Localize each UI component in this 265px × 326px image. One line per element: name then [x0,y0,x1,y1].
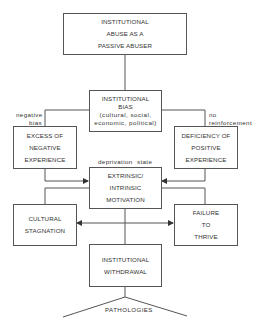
node-text: INSTITUTIONAL [102,95,150,103]
node-text: PASSIVE ABUSER [98,40,152,52]
node-text: EXTRINSIC/ [108,170,144,182]
node-text: (cultural, social, [100,111,152,119]
node-text: THRIVE [194,231,217,243]
node-text: WITHDRAWAL [104,266,147,278]
node-text: CULTURAL [28,213,61,225]
label-no-reinforcement: no reinforcement [209,111,252,127]
node-institutional-withdrawal: INSTITUTIONAL WITHDRAWAL [89,244,162,287]
node-text: POSITIVE [191,142,220,154]
node-text: TO [202,219,211,231]
node-excess-negative-experience: EXCESS OF NEGATIVE EXPERIENCE [13,126,77,169]
label-negative-bias: negative bias [16,111,42,127]
node-deficiency-positive-experience: DEFICIENCY OF POSITIVE EXPERIENCE [174,126,238,169]
node-cultural-stagnation: CULTURAL STAGNATION [13,204,77,246]
node-text: INTRINSIC [110,182,142,194]
node-text: MOTIVATION [106,194,145,206]
node-text: INSTITUTIONAL [102,254,150,266]
node-extrinsic-intrinsic-motivation: EXTRINSIC/ INTRINSIC MOTIVATION [89,167,162,209]
node-text: DEFICIENCY OF [182,130,231,142]
node-text: STAGNATION [25,225,65,237]
label-deprivation-state: deprivation state [98,158,152,166]
node-text: INSTITUTIONAL [101,16,149,28]
flow-diagram: INSTITUTIONAL ABUSE AS A PASSIVE ABUSER … [0,0,265,326]
label-text: no [209,111,252,119]
node-text: ABUSE AS A [106,28,143,40]
node-institutional-bias: INSTITUTIONAL BIAS (cultural, social, ec… [89,90,162,132]
node-text: economic, political) [94,119,157,127]
node-text: EXPERIENCE [25,154,66,166]
node-text: BIAS [118,103,133,111]
label-pathologies: PATHOLOGIES [105,306,153,314]
node-text: FAILURE [193,207,220,219]
node-institutional-abuse: INSTITUTIONAL ABUSE AS A PASSIVE ABUSER [63,13,187,55]
node-failure-to-thrive: FAILURE TO THRIVE [174,204,238,246]
node-text: NEGATIVE [29,142,61,154]
node-text: EXCESS OF [27,130,63,142]
label-text: negative [16,111,42,119]
node-text: EXPERIENCE [186,154,227,166]
